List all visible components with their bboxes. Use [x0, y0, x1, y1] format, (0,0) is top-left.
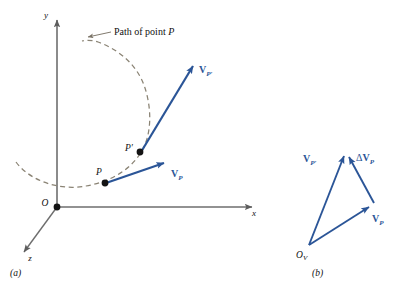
point-p-prime-dot: [137, 149, 144, 156]
panel-a-caption: (a): [10, 268, 21, 279]
path-annotation-leader: [88, 32, 111, 37]
origin-dot: [54, 204, 61, 211]
panel-b-caption: (b): [312, 268, 323, 279]
path-annotation-point-letter: P: [167, 26, 174, 37]
y-axis-label: y: [43, 10, 48, 20]
origin-v-label-panel-b: OV: [296, 250, 308, 262]
point-p-label: P: [95, 167, 102, 177]
vector-vp-prime-label-panel-b: VP′: [303, 153, 317, 167]
vector-vp-label-panel-a: VP: [171, 168, 183, 182]
panel-b: OV VP′ VP ΔVP (b): [296, 152, 384, 279]
origin-v-label-sub: V: [303, 254, 308, 262]
path-annotation-text: Path of point: [114, 26, 168, 37]
vector-delta-vp-label-sub: P: [370, 158, 375, 166]
vector-vp-arrow-panel-a: [106, 163, 164, 183]
panel-a: y x z O Path of point P P P′: [10, 10, 256, 279]
vector-vp-prime-arrow-panel-b: [309, 156, 344, 245]
origin-label: O: [42, 198, 49, 208]
figure-canvas: y x z O Path of point P P P′: [0, 0, 397, 290]
point-p-dot: [102, 180, 109, 187]
figure-container: y x z O Path of point P P P′: [0, 0, 397, 290]
z-axis-label: z: [27, 253, 32, 263]
vector-vp-arrow-panel-b: [309, 207, 369, 245]
vector-vp-label-sub-b: P: [379, 219, 384, 227]
vector-delta-vp-label-panel-b: ΔVP: [356, 152, 375, 166]
vector-vp-prime-label-panel-a: VP′: [199, 64, 213, 78]
path-annotation-label: Path of point P: [114, 26, 174, 37]
point-p-prime-label: P′: [124, 143, 134, 153]
path-of-point-p-curve: [16, 40, 150, 187]
vector-vp-label-panel-b: VP: [372, 213, 384, 227]
x-axis-label: x: [251, 208, 256, 218]
vector-vp-prime-label-sub-a: P′: [206, 70, 212, 78]
vector-vp-prime-label-sub-b: P′: [310, 159, 316, 167]
vector-vp-label-sub-a: P: [178, 174, 183, 182]
vector-vp-prime-arrow-panel-a: [141, 66, 193, 152]
z-axis-line: [24, 207, 57, 252]
